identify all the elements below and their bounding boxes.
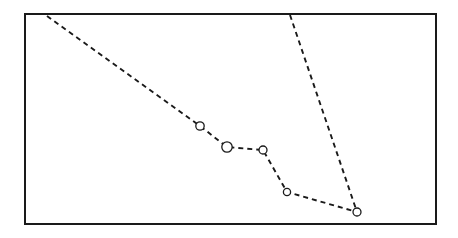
data-point-marker: [353, 208, 361, 216]
data-point-marker: [196, 122, 204, 130]
figure-canvas: [0, 0, 458, 238]
plot-background: [0, 0, 458, 238]
plot-area: [0, 0, 458, 238]
data-point-marker: [283, 188, 290, 195]
data-point-marker: [259, 146, 267, 154]
data-point-marker: [222, 142, 232, 152]
